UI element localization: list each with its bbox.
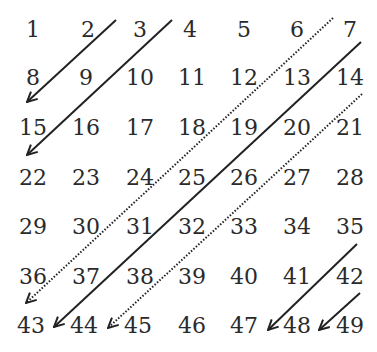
arrow-solid-42-to-48 bbox=[319, 293, 360, 330]
arrow-solid-35-to-47 bbox=[268, 244, 357, 330]
arrow-dotted-14-to-44 bbox=[108, 94, 362, 328]
arrow-solid-2-to-8 bbox=[27, 20, 116, 102]
diagonal-arrows bbox=[0, 0, 377, 352]
arrow-solid-3-to-15 bbox=[27, 20, 172, 155]
